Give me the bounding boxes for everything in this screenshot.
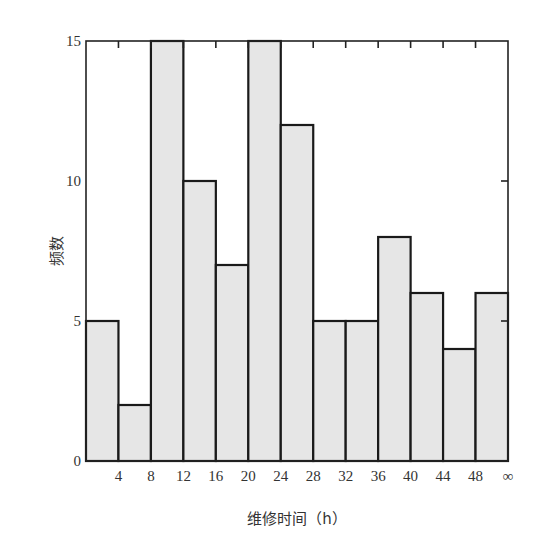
bar-36-40 (378, 237, 410, 461)
y-axis-title: 频数 (48, 236, 66, 266)
y-tick-label: 0 (74, 453, 82, 469)
bar-44-48 (443, 349, 475, 461)
bar-40-44 (411, 293, 443, 461)
bar-28-32 (313, 321, 345, 461)
x-tick-label: 24 (273, 468, 289, 484)
y-tick-labels: 051015 (66, 33, 81, 469)
x-tick-label: 36 (371, 468, 387, 484)
x-tick-label: 12 (176, 468, 191, 484)
bar-24-28 (281, 125, 313, 461)
bar-48-∞ (476, 293, 508, 461)
x-tick-labels: 4812162024283236404448∞ (115, 468, 514, 484)
x-tick-label: 4 (115, 468, 123, 484)
bar-12-16 (183, 181, 215, 461)
y-tick-label: 10 (66, 173, 81, 189)
x-tick-label: 8 (147, 468, 155, 484)
x-tick-label: 40 (403, 468, 418, 484)
x-tick-label: 16 (208, 468, 224, 484)
x-tick-label: 28 (306, 468, 321, 484)
histogram-chart: 4812162024283236404448∞ 051015 维修时间（h） 频… (0, 0, 548, 548)
x-tick-label: 44 (436, 468, 452, 484)
y-tick-label: 5 (74, 313, 82, 329)
x-tick-label: ∞ (503, 468, 514, 484)
bar-4-8 (118, 405, 150, 461)
y-axis-title-group: 频数 (48, 236, 66, 266)
x-tick-label: 20 (241, 468, 256, 484)
x-tick-label: 48 (468, 468, 483, 484)
bar-32-36 (346, 321, 378, 461)
bar-0-4 (86, 321, 118, 461)
bar-16-20 (216, 265, 248, 461)
bar-20-24 (248, 41, 280, 461)
x-axis-title: 维修时间（h） (247, 510, 347, 528)
bar-8-12 (151, 41, 183, 461)
y-tick-label: 15 (66, 33, 81, 49)
bars-group (86, 41, 508, 461)
x-tick-label: 32 (338, 468, 353, 484)
